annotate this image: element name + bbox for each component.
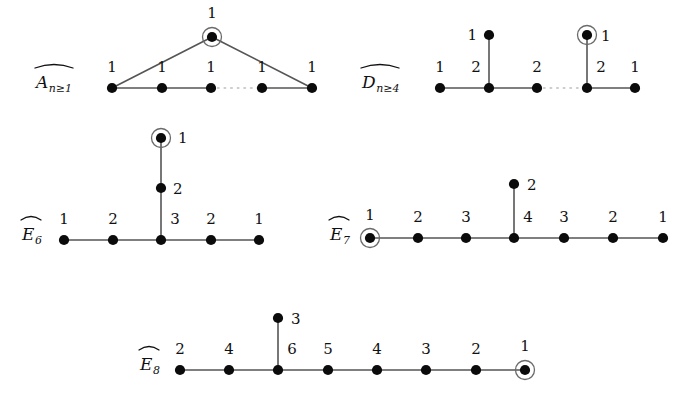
node-e8_4[interactable] bbox=[323, 365, 333, 375]
mark-label-e7_6: 1 bbox=[658, 208, 668, 226]
diagram-subscript-E6: 6 bbox=[35, 234, 42, 247]
node-e8_5[interactable] bbox=[372, 365, 382, 375]
node-a5[interactable] bbox=[307, 83, 317, 93]
diagram-name-label-D: Dn≥4 bbox=[361, 65, 399, 96]
mark-label-e6_5: 1 bbox=[254, 210, 264, 228]
mark-label-d_top_left: 1 bbox=[467, 26, 477, 44]
diagram-hat-accent-E8 bbox=[139, 347, 159, 351]
diagram-name-text-D: Dn≥4 bbox=[361, 72, 399, 95]
node-e8_0[interactable] bbox=[520, 365, 530, 375]
mark-label-a5: 1 bbox=[307, 58, 317, 76]
mark-label-d5: 1 bbox=[630, 58, 640, 76]
node-e7_6[interactable] bbox=[658, 233, 668, 243]
diagram-hat-accent-E7 bbox=[329, 217, 349, 221]
dynkin-diagram-canvas: 111111An≥11112221Dn≥41212321E621234321E7… bbox=[0, 0, 682, 397]
mark-label-e8_0: 1 bbox=[520, 337, 530, 355]
node-e7_top[interactable] bbox=[509, 179, 519, 189]
dynkin-diagram-E7: 21234321E7 bbox=[329, 176, 668, 248]
diagram-letter-A: A bbox=[34, 72, 48, 92]
node-d3[interactable] bbox=[532, 83, 542, 93]
mark-label-e7_5: 2 bbox=[608, 208, 618, 226]
node-e8_2[interactable] bbox=[224, 365, 234, 375]
diagram-subscript-E7: 7 bbox=[343, 234, 350, 247]
mark-label-e8_top: 3 bbox=[291, 310, 301, 328]
node-e6_top[interactable] bbox=[156, 133, 166, 143]
node-a1[interactable] bbox=[107, 83, 117, 93]
node-e6_2[interactable] bbox=[108, 235, 118, 245]
mark-label-e7_3: 4 bbox=[523, 208, 533, 226]
mark-label-a2: 1 bbox=[157, 58, 167, 76]
dynkin-diagram-E8: 324654321E8 bbox=[139, 310, 535, 380]
node-e7_5[interactable] bbox=[608, 233, 618, 243]
mark-label-e7_4: 3 bbox=[559, 208, 569, 226]
node-a4[interactable] bbox=[257, 83, 267, 93]
diagram-hat-accent-D bbox=[361, 65, 399, 69]
mark-label-e8_3: 6 bbox=[287, 340, 297, 358]
node-e6_4[interactable] bbox=[206, 235, 216, 245]
node-a2[interactable] bbox=[157, 83, 167, 93]
mark-label-a3: 1 bbox=[206, 58, 216, 76]
mark-label-a0: 1 bbox=[207, 4, 217, 22]
mark-label-e6_4: 2 bbox=[206, 210, 216, 228]
mark-label-d4: 2 bbox=[596, 58, 606, 76]
node-e6_5[interactable] bbox=[254, 235, 264, 245]
node-d_top_left[interactable] bbox=[484, 30, 494, 40]
mark-label-e8_2: 4 bbox=[224, 340, 234, 358]
diagram-subscript-D: n≥4 bbox=[376, 82, 399, 95]
mark-label-a4: 1 bbox=[257, 58, 267, 76]
node-e8_6[interactable] bbox=[421, 365, 431, 375]
diagram-name-text-E8: E8 bbox=[139, 354, 160, 377]
node-e7_4[interactable] bbox=[559, 233, 569, 243]
node-d5[interactable] bbox=[630, 83, 640, 93]
node-e8_1[interactable] bbox=[175, 365, 185, 375]
mark-label-e6_3: 3 bbox=[170, 210, 180, 228]
mark-label-e7_top: 2 bbox=[527, 176, 537, 194]
node-d_top_right[interactable] bbox=[582, 30, 592, 40]
diagram-subscript-A: n≥1 bbox=[49, 82, 72, 95]
dynkin-diagram-E6: 1212321E6 bbox=[21, 129, 264, 248]
mark-label-e8_1: 2 bbox=[175, 340, 185, 358]
affine-dynkin-diagram-figure: 111111An≥11112221Dn≥41212321E621234321E7… bbox=[0, 0, 682, 397]
node-e7_0[interactable] bbox=[365, 233, 375, 243]
node-e6_1[interactable] bbox=[59, 235, 69, 245]
mark-label-e8_4: 5 bbox=[323, 340, 333, 358]
mark-label-e8_5: 4 bbox=[372, 340, 382, 358]
node-d2[interactable] bbox=[484, 83, 494, 93]
mark-label-e6_2: 2 bbox=[108, 210, 118, 228]
node-e8_7[interactable] bbox=[471, 365, 481, 375]
diagram-letter-D: D bbox=[361, 72, 376, 92]
mark-label-e7_1: 2 bbox=[413, 208, 423, 226]
mark-label-e7_0: 1 bbox=[365, 206, 375, 224]
mark-label-e6_mid: 2 bbox=[173, 180, 183, 198]
mark-label-a1: 1 bbox=[107, 58, 117, 76]
mark-label-e8_6: 3 bbox=[421, 340, 431, 358]
mark-label-d_top_right: 1 bbox=[601, 27, 611, 45]
diagram-subscript-E8: 8 bbox=[153, 364, 160, 377]
node-e7_2[interactable] bbox=[461, 233, 471, 243]
node-a3[interactable] bbox=[206, 83, 216, 93]
dynkin-diagram-D: 1112221Dn≥4 bbox=[361, 26, 640, 96]
diagram-hat-accent-A bbox=[35, 65, 73, 69]
diagram-name-label-E6: E6 bbox=[21, 217, 42, 248]
diagram-name-text-E7: E7 bbox=[329, 224, 350, 247]
mark-label-e6_top: 1 bbox=[178, 129, 188, 147]
node-e7_3[interactable] bbox=[509, 233, 519, 243]
mark-label-d3: 2 bbox=[532, 58, 542, 76]
node-e8_top[interactable] bbox=[273, 313, 283, 323]
mark-label-e8_7: 2 bbox=[471, 340, 481, 358]
mark-label-d2: 2 bbox=[471, 58, 481, 76]
node-e6_mid[interactable] bbox=[156, 183, 166, 193]
node-e6_3[interactable] bbox=[156, 235, 166, 245]
diagram-letter-E6: E bbox=[21, 224, 35, 244]
diagram-name-label-E7: E7 bbox=[329, 217, 350, 248]
diagram-name-label-E8: E8 bbox=[139, 347, 160, 378]
mark-label-d1: 1 bbox=[435, 58, 445, 76]
dynkin-diagram-A: 111111An≥1 bbox=[34, 4, 317, 95]
mark-label-e6_1: 1 bbox=[59, 210, 69, 228]
node-a0[interactable] bbox=[207, 32, 217, 42]
diagram-hat-accent-E6 bbox=[21, 217, 41, 221]
node-d4[interactable] bbox=[582, 83, 592, 93]
node-e7_1[interactable] bbox=[413, 233, 423, 243]
node-e8_3[interactable] bbox=[273, 365, 283, 375]
node-d1[interactable] bbox=[435, 83, 445, 93]
